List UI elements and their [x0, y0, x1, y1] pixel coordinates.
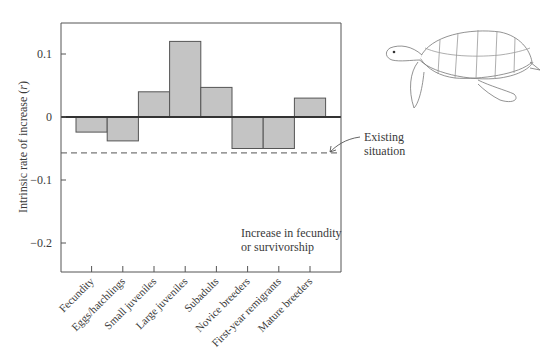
bar-subadults	[201, 87, 232, 117]
bar-mature-breeders	[294, 98, 325, 117]
bars	[76, 41, 326, 148]
y-tick-label: −0.1	[30, 173, 52, 187]
x-ticks	[92, 266, 310, 272]
y-tick-label: 0.1	[37, 47, 52, 61]
bar-small-juveniles	[138, 92, 169, 117]
y-tick-label: −0.2	[30, 236, 52, 250]
y-axis-label: Intrinsic rate of increase (r)	[16, 81, 30, 213]
increase-annotation: Increase in fecundity or survivorship	[241, 226, 345, 254]
bar-large-juveniles	[170, 41, 201, 117]
x-tick-label: Mature breeders	[255, 275, 314, 334]
existing-situation-label: Existing situation	[364, 130, 407, 158]
annotation-arrow-icon	[330, 137, 360, 152]
bar-fecundity	[76, 117, 107, 132]
x-tick-label: Novice breeders	[193, 275, 252, 334]
y-tick-label: 0	[46, 110, 52, 124]
sea-turtle-icon	[386, 30, 540, 108]
bar-eggs-hatchlings	[107, 117, 138, 141]
x-tick-labels: FecundityEggs/hatchlingsSmall juvenilesL…	[56, 275, 314, 349]
chart: 0.10−0.1−0.2 FecundityEggs/hatchlingsSma…	[0, 0, 543, 358]
bar-first-year-remigrants	[263, 117, 294, 149]
bar-novice-breeders	[232, 117, 263, 149]
